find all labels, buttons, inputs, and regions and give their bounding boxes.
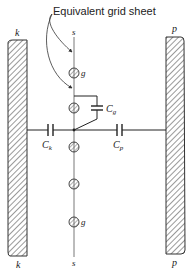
sheet-label-bottom: s <box>72 258 76 268</box>
cap-label-cg: Cg <box>106 103 117 116</box>
cap-label-ck: Ck <box>42 139 53 152</box>
diagram-title: Equivalent grid sheet <box>53 5 156 17</box>
cap-label-cp: Cp <box>113 139 124 152</box>
grid-sheet-diagram: Equivalent grid sheet k k p p s s g g <box>0 0 190 273</box>
grid-wire-1 <box>69 68 79 78</box>
leader-arrow-upper <box>50 14 72 52</box>
plate-electrode <box>166 37 185 254</box>
wire-label-g-1: g <box>81 68 86 78</box>
grid-wire-2 <box>69 103 79 113</box>
grid-wire-3 <box>69 142 79 152</box>
cathode-electrode <box>8 40 27 256</box>
cathode-label-top: k <box>15 27 20 38</box>
grid-wire-5 <box>69 217 79 227</box>
plate-label-bottom: p <box>171 257 177 268</box>
plate-label-top: p <box>171 23 177 34</box>
cathode-label-bottom: k <box>16 259 21 270</box>
sheet-label-top: s <box>72 27 76 37</box>
circuit-line <box>27 124 166 136</box>
wire-label-g-2: g <box>81 217 86 227</box>
diagram-svg: Equivalent grid sheet k k p p s s g g <box>0 0 190 273</box>
grid-capacitor-branch <box>74 96 103 130</box>
grid-wire-4 <box>69 179 79 189</box>
